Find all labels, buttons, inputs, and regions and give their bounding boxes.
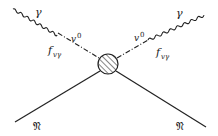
nucleon-left-label: 𝔑 xyxy=(33,120,41,133)
photon-right-label: γ xyxy=(176,7,183,20)
interaction-blob xyxy=(98,54,118,74)
feynman-diagram: γ γ v 0 v 0 f vγ f vγ 𝔑 𝔑 xyxy=(0,0,218,136)
coupling-left-subscript: vγ xyxy=(53,51,62,59)
meson-left-label: v xyxy=(71,34,76,44)
meson-right-label: v xyxy=(134,33,139,43)
photon-left-label: γ xyxy=(35,6,42,19)
meson-left-superscript: 0 xyxy=(77,32,81,40)
outgoing-nucleon-line xyxy=(116,71,206,127)
outgoing-vector-meson-line xyxy=(117,40,148,58)
nucleon-right-label: 𝔑 xyxy=(176,120,184,133)
meson-right-superscript: 0 xyxy=(140,31,144,39)
coupling-right-subscript: vγ xyxy=(161,53,170,61)
incoming-nucleon-line xyxy=(15,71,100,122)
